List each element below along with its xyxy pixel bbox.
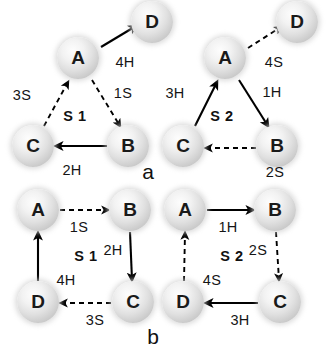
edge-label-b-c: 2H bbox=[103, 242, 122, 258]
edge-label-c-a: 3H bbox=[165, 85, 184, 101]
node-d: D bbox=[17, 281, 59, 323]
node-d: D bbox=[276, 1, 318, 43]
node-c: C bbox=[12, 125, 54, 167]
node-a: A bbox=[204, 37, 246, 79]
node-label: B bbox=[123, 200, 137, 219]
node-label: A bbox=[178, 200, 192, 219]
panel-label-a: a bbox=[142, 160, 154, 184]
edge-label-b-c: 2S bbox=[249, 242, 267, 258]
edge-label-a-d: 4H bbox=[115, 54, 134, 70]
node-label: B bbox=[268, 200, 282, 219]
edge-label-a-b: 1S bbox=[114, 85, 132, 101]
edge-label-a-d: 4S bbox=[265, 54, 283, 70]
node-a: A bbox=[164, 189, 206, 231]
edge-arrow-b-s1-B-C bbox=[130, 232, 132, 280]
node-b: B bbox=[254, 189, 296, 231]
node-label: D bbox=[145, 12, 159, 31]
node-label: A bbox=[31, 200, 45, 219]
node-label: A bbox=[218, 48, 232, 67]
edge-arrow-a-s2-A-D bbox=[248, 27, 281, 48]
edge-arrow-b-s2-B-C bbox=[276, 232, 279, 280]
state-label: S 1 bbox=[74, 248, 98, 264]
node-label: B bbox=[121, 136, 135, 155]
node-d: D bbox=[162, 281, 204, 323]
panel-label-b: b bbox=[147, 325, 159, 349]
state-label: S 1 bbox=[63, 108, 87, 124]
node-label: C bbox=[176, 136, 190, 155]
node-label: C bbox=[126, 292, 140, 311]
edge-label-d-a: 4H bbox=[56, 272, 75, 288]
edge-label-d-a: 4S bbox=[203, 272, 221, 288]
edge-label-b-c: 2S bbox=[266, 164, 284, 180]
node-label: C bbox=[273, 292, 287, 311]
edge-label-c-d: 3H bbox=[230, 312, 249, 328]
edge-label-a-b: 1H bbox=[218, 219, 237, 235]
figure-canvas: ABCDABCDABCDABCD 4H1S2H3SS 14S1H2S3HS 2a… bbox=[0, 0, 333, 354]
node-a: A bbox=[17, 189, 59, 231]
state-label: S 2 bbox=[210, 108, 234, 124]
node-a: A bbox=[57, 37, 99, 79]
node-label: D bbox=[290, 12, 304, 31]
edge-label-b-c: 2H bbox=[62, 162, 81, 178]
node-c: C bbox=[112, 281, 154, 323]
node-label: B bbox=[270, 136, 284, 155]
edge-arrow-b-s2-D-A bbox=[184, 233, 185, 281]
node-c: C bbox=[162, 125, 204, 167]
edge-label-c-a: 3S bbox=[13, 87, 31, 103]
edge-arrow-a-s1-A-D bbox=[101, 26, 136, 47]
node-c: C bbox=[259, 281, 301, 323]
node-label: D bbox=[31, 292, 45, 311]
node-d: D bbox=[131, 1, 173, 43]
node-label: C bbox=[26, 136, 40, 155]
state-label: S 2 bbox=[220, 248, 244, 264]
node-label: A bbox=[71, 48, 85, 67]
node-b: B bbox=[256, 125, 298, 167]
node-label: D bbox=[176, 292, 190, 311]
edge-label-a-b: 1H bbox=[262, 84, 281, 100]
node-b: B bbox=[109, 189, 151, 231]
edge-label-a-b: 1S bbox=[70, 219, 88, 235]
edge-label-c-d: 3S bbox=[86, 312, 104, 328]
